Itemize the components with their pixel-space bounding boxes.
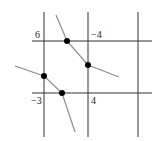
label-bottom-left: −3 — [31, 95, 42, 106]
label-top-right: −4 — [91, 29, 102, 40]
point-lower-left — [41, 73, 47, 79]
point-upper-right — [85, 62, 91, 68]
point-upper-top — [64, 38, 70, 44]
label-bottom-right: 4 — [91, 95, 96, 106]
diagram-canvas: 6 −4 −3 4 — [0, 0, 159, 141]
point-lower-bottom — [59, 90, 65, 96]
label-top-left: 6 — [35, 29, 40, 40]
